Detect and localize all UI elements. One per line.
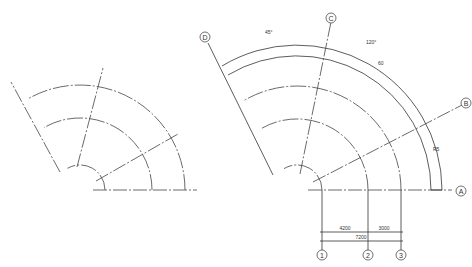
left-arc-inner [68, 165, 106, 190]
annotation-arc-side: R5 [433, 146, 440, 152]
outer-arc-inner [228, 56, 431, 190]
annotation-angle-top: 45° [265, 29, 273, 35]
drawing-canvas: 4200 3000 7200 45° 120° 60 R5 D C B A 1 … [0, 0, 472, 267]
left-arc-outer [28, 85, 186, 190]
axis-d-label: D [202, 34, 207, 41]
dim-1-3: 7200 [355, 234, 366, 240]
arc-grid-2 [260, 119, 368, 190]
annotation-arc-outer: 120° [366, 39, 376, 45]
left-axis-120 [11, 82, 60, 172]
left-drawing [11, 68, 197, 190]
left-axis-30 [96, 134, 178, 181]
grid-3-label: 3 [399, 252, 403, 259]
right-drawing: 4200 3000 7200 45° 120° 60 R5 D C B A 1 … [200, 13, 471, 260]
axis-b-line [313, 105, 462, 182]
axis-a-label: A [459, 188, 464, 195]
axis-c-line [300, 22, 331, 174]
grid-1-label: 1 [320, 252, 324, 259]
annotation-arc-inner: 60 [378, 60, 384, 66]
arc-grid-1 [284, 165, 322, 190]
outer-arc-outer [222, 45, 442, 190]
left-axis-75 [77, 68, 103, 167]
arc-grid-3 [243, 86, 401, 190]
axis-c-label: C [328, 15, 333, 22]
left-arc-mid [44, 118, 152, 190]
axis-d-line [208, 43, 273, 175]
dim-2-3: 3000 [378, 225, 389, 231]
dim-1-2: 4200 [339, 225, 350, 231]
grid-2-label: 2 [366, 252, 370, 259]
axis-b-label: B [464, 100, 469, 107]
